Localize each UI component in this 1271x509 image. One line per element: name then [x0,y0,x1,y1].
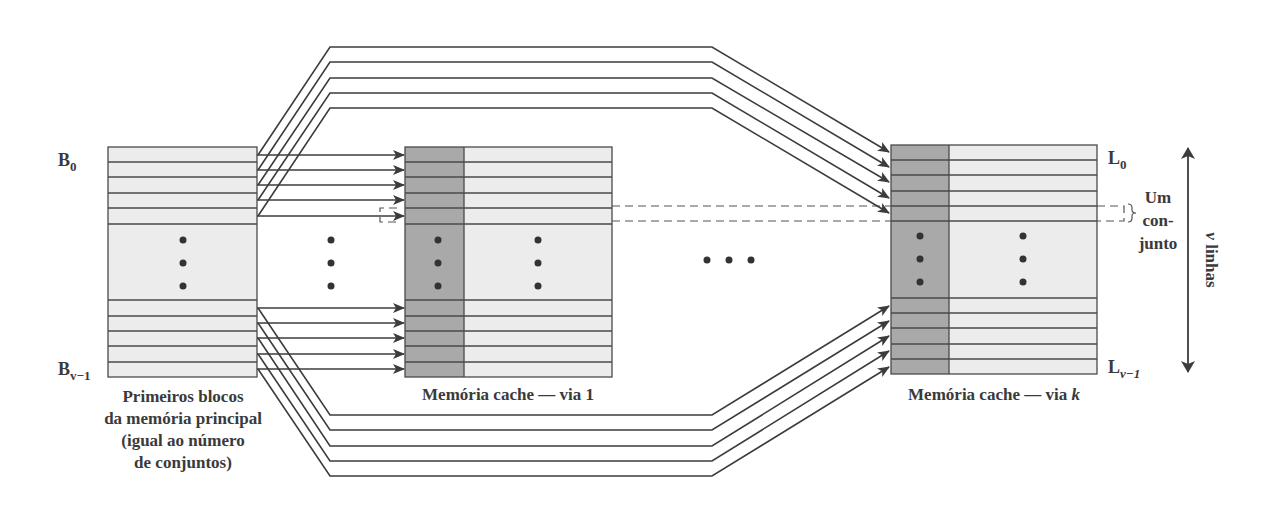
svg-text:(igual ao número: (igual ao número [121,431,244,450]
cache-way-1-caption: Memória cache — via 1 [422,385,594,404]
brace-icon [1128,204,1136,222]
block-label-bv-1: Bv−1 [58,359,90,383]
cache-way-1 [405,147,612,377]
main-memory-caption: Primeiros blocos da memória principal (i… [104,387,262,472]
main-memory-blocks [108,147,257,377]
cache-way-k [891,145,1097,374]
line-label-lv-1: Lv−1 [1108,357,1140,381]
vertical-ellipsis-icon [328,237,335,290]
set-annotation: Um con- junto [1138,188,1178,253]
svg-text:Primeiros blocos: Primeiros blocos [122,387,243,406]
horizontal-ellipsis-icon [704,257,755,264]
k-way-set-associative-diagram: B0 Bv−1 Primeiros blocos da memória prin… [0,0,1271,509]
block-label-b0: B0 [58,150,77,174]
svg-text:da memória principal: da memória principal [104,409,262,428]
svg-text:junto: junto [1138,234,1178,253]
svg-text:de conjuntos): de conjuntos) [134,453,232,472]
lines-count-label: v linhas [1202,232,1221,288]
line-label-l0: L0 [1108,148,1127,172]
cache-way-k-caption: Memória cache — via k [908,385,1080,404]
svg-text:Um: Um [1145,188,1171,207]
svg-text:con-: con- [1142,211,1174,230]
